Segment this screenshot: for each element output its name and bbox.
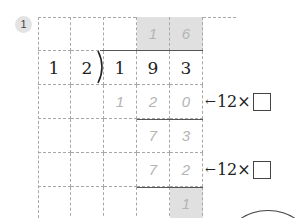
grid-cell (38, 187, 71, 218)
grid-cell (38, 17, 71, 51)
product-digit: 0 (170, 85, 203, 119)
product-digit: 2 (170, 153, 203, 187)
dividend-digit: 1 (104, 51, 137, 85)
multiplier-label: 12× (217, 92, 251, 111)
remainder-digit: 7 (137, 119, 170, 153)
grid-cell (137, 187, 170, 218)
dividend-digit: 3 (170, 51, 203, 85)
answer-box[interactable] (253, 161, 271, 179)
grid-cell (38, 153, 71, 187)
grid-cell (104, 119, 137, 153)
answer-box[interactable] (253, 93, 271, 111)
quotient-digit: 6 (170, 17, 203, 51)
answer-circle (228, 210, 298, 218)
grid-cell (104, 17, 137, 51)
multiplier-note: ← 12× (205, 92, 271, 111)
grid-cell (104, 153, 137, 187)
subtraction-line (137, 187, 203, 188)
left-arrow-icon: ← (205, 94, 216, 109)
dividend-digit: 9 (137, 51, 170, 85)
divisor-digit: 1 (38, 51, 71, 85)
problem-number-badge: 1 (15, 16, 32, 33)
grid-cell (71, 17, 104, 51)
remainder-digit: 3 (170, 119, 203, 153)
product-digit: 2 (137, 85, 170, 119)
grid-cell (71, 153, 104, 187)
grid-cell (38, 85, 71, 119)
grid-cell (38, 119, 71, 153)
division-bracket (96, 50, 108, 84)
grid-cell (71, 119, 104, 153)
left-arrow-icon: ← (205, 162, 216, 177)
multiplier-note: ← 12× (205, 160, 271, 179)
quotient-digit: 1 (137, 17, 170, 51)
product-digit: 1 (104, 85, 137, 119)
multiplier-label: 12× (217, 160, 251, 179)
grid-cell (71, 187, 104, 218)
grid-cell (71, 85, 104, 119)
division-bar (100, 50, 203, 51)
subtraction-line (137, 119, 203, 120)
product-digit: 7 (137, 153, 170, 187)
grid-cell (104, 187, 137, 218)
final-remainder-digit: 1 (170, 187, 203, 218)
